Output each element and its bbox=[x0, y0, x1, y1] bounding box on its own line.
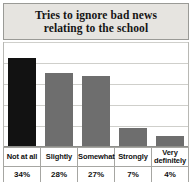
value-label-somewhat: 27% bbox=[78, 167, 115, 183]
bar-slot bbox=[78, 42, 115, 146]
category-label-strongly: Strongly bbox=[115, 148, 152, 167]
plot-area bbox=[3, 42, 189, 147]
bar-slot bbox=[114, 42, 151, 146]
category-label-very-definitely: Very definitely bbox=[152, 148, 189, 167]
chart-title: Tries to ignore bad news relating to the… bbox=[31, 9, 161, 35]
category-label-slightly: Slightly bbox=[41, 148, 78, 167]
bar-slot bbox=[151, 42, 188, 146]
value-label-slightly: 28% bbox=[41, 167, 78, 183]
table-row-labels: Not at all Slightly Somewhat Strongly Ve… bbox=[4, 148, 189, 167]
bar-slot bbox=[41, 42, 78, 146]
chart-title-line-2: relating to the school bbox=[44, 22, 149, 34]
bar-series bbox=[4, 42, 188, 146]
table-row-values: 34% 28% 27% 7% 4% bbox=[4, 167, 189, 183]
chart-title-banner: Tries to ignore bad news relating to the… bbox=[3, 3, 189, 40]
bar-not-at-all bbox=[8, 58, 36, 146]
category-label-not-at-all: Not at all bbox=[4, 148, 41, 167]
value-label-very-definitely: 4% bbox=[152, 167, 189, 183]
value-label-not-at-all: 34% bbox=[4, 167, 41, 183]
bar-chart-figure: Tries to ignore bad news relating to the… bbox=[0, 0, 193, 182]
bar-slightly bbox=[45, 73, 73, 146]
value-label-strongly: 7% bbox=[115, 167, 152, 183]
bar-very-definitely bbox=[156, 136, 184, 146]
bar-somewhat bbox=[82, 76, 110, 146]
data-table: Not at all Slightly Somewhat Strongly Ve… bbox=[3, 147, 189, 182]
bar-strongly bbox=[119, 128, 147, 146]
category-label-somewhat: Somewhat bbox=[78, 148, 115, 167]
chart-title-line-1: Tries to ignore bad news bbox=[35, 9, 157, 21]
bar-slot bbox=[4, 42, 41, 146]
